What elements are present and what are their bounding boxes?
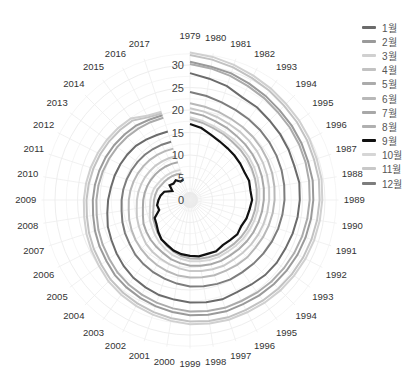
category-label: 1988 [342, 168, 363, 179]
category-label: 1979 [179, 30, 200, 41]
category-label: 2005 [47, 291, 68, 302]
category-label: 1998 [205, 356, 226, 367]
category-label: 1987 [336, 143, 357, 154]
series-line [96, 64, 309, 312]
radial-tick-label: 0 [178, 194, 184, 206]
polar-plot-area: 1979198019811982199319941995199619871988… [0, 0, 417, 380]
category-label: 2007 [23, 245, 44, 256]
category-label: 2011 [24, 143, 44, 154]
legend-label: 5월 [382, 76, 397, 91]
category-label: 1995 [312, 97, 333, 108]
legend-swatch [362, 182, 376, 185]
legend-item[interactable]: 9월 [362, 134, 402, 148]
legend-swatch [362, 167, 376, 170]
category-label: 1996 [254, 340, 275, 351]
category-label: 2001 [129, 350, 150, 361]
legend-label: 9월 [382, 133, 397, 148]
category-label: 1982 [254, 48, 275, 59]
legend-swatch [362, 26, 376, 29]
category-label: 2004 [63, 310, 84, 321]
legend-item[interactable]: 3월 [362, 48, 402, 62]
category-label: 2015 [83, 61, 104, 72]
category-label: 2010 [17, 168, 38, 179]
legend-swatch [362, 153, 376, 156]
legend-label: 12월 [382, 176, 402, 191]
legend-swatch [362, 68, 376, 71]
legend-label: 4월 [382, 62, 397, 77]
category-label: 1999 [179, 358, 200, 369]
category-label: 2006 [33, 269, 54, 280]
category-label: 1997 [230, 350, 251, 361]
category-label: 1989 [344, 194, 365, 205]
legend-swatch [362, 111, 376, 114]
radial-tick-label: 10 [172, 149, 184, 161]
radial-tick-label: 30 [172, 59, 184, 71]
category-label: 1990 [342, 220, 363, 231]
category-label: 1993 [276, 61, 297, 72]
category-label: 2016 [105, 48, 126, 59]
legend-swatch [362, 97, 376, 100]
legend-label: 2월 [382, 34, 397, 49]
legend-swatch [362, 139, 376, 142]
category-label: 2003 [83, 327, 104, 338]
chart-legend: 1월2월3월4월5월6월7월8월9월10월11월12월 [362, 20, 402, 190]
category-label: 2000 [154, 356, 175, 367]
category-label: 2009 [15, 194, 36, 205]
category-label: 2012 [33, 119, 54, 130]
legend-label: 3월 [382, 48, 397, 63]
legend-label: 8월 [382, 119, 397, 134]
legend-label: 10월 [382, 147, 402, 162]
category-label: 1981 [230, 38, 251, 49]
series-line [107, 73, 299, 303]
category-label: 1993 [312, 291, 333, 302]
legend-item[interactable]: 1월 [362, 20, 402, 34]
category-label: 2008 [17, 220, 38, 231]
category-label: 1980 [205, 32, 226, 43]
grid-spoke [49, 200, 190, 246]
radial-tick-label: 15 [172, 127, 184, 139]
legend-item[interactable]: 7월 [362, 105, 402, 119]
legend-item[interactable]: 2월 [362, 34, 402, 48]
legend-label: 11월 [382, 161, 401, 176]
legend-swatch [362, 82, 376, 85]
category-label: 2002 [105, 340, 126, 351]
legend-item[interactable]: 11월 [362, 162, 402, 176]
legend-item[interactable]: 4월 [362, 63, 402, 77]
legend-label: 7월 [382, 105, 397, 120]
category-label: 1992 [326, 269, 347, 280]
legend-swatch [362, 40, 376, 43]
legend-item[interactable]: 8월 [362, 119, 402, 133]
category-label: 1994 [296, 310, 317, 321]
legend-swatch [362, 54, 376, 57]
category-label: 2014 [63, 78, 84, 89]
legend-swatch [362, 125, 376, 128]
category-label: 2013 [47, 97, 68, 108]
radial-tick-label: 25 [172, 82, 184, 94]
polar-chart: 1979198019811982199319941995199619871988… [0, 0, 417, 380]
category-label: 1996 [326, 119, 347, 130]
legend-label: 1월 [382, 20, 397, 35]
legend-label: 6월 [382, 91, 397, 106]
category-label: 1991 [336, 245, 357, 256]
radial-tick-label: 20 [172, 104, 184, 116]
legend-item[interactable]: 5월 [362, 77, 402, 91]
legend-item[interactable]: 6월 [362, 91, 402, 105]
category-label: 1994 [296, 78, 317, 89]
legend-item[interactable]: 10월 [362, 148, 402, 162]
category-label: 2017 [129, 38, 150, 49]
radial-tick-label: 5 [178, 172, 184, 184]
category-label: 1995 [276, 327, 297, 338]
legend-item[interactable]: 12월 [362, 176, 402, 190]
